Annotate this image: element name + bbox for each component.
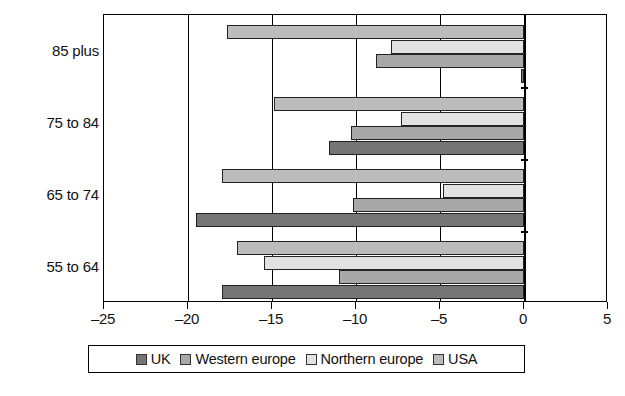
legend-item-uk: UK (136, 351, 171, 367)
group-separator-tick (521, 159, 528, 161)
bar-uk-75-to-84 (329, 141, 524, 155)
bar-usa-65-to-74 (222, 169, 524, 183)
bar-uk-55-to-64 (222, 285, 524, 299)
group-separator-tick (521, 231, 528, 233)
y-category-label-65-to-74: 65 to 74 (3, 186, 99, 203)
bar-chart-figure: 55 to 6465 to 7475 to 8485 plus –25–20–1… (0, 0, 625, 396)
bar-western-europe-85-plus (376, 54, 524, 68)
y-category-label-55-to-64: 55 to 64 (3, 258, 99, 275)
bar-usa-85-plus (227, 25, 524, 39)
bar-northern-europe-55-to-64 (264, 256, 524, 270)
legend-item-western-europe: Western europe (180, 351, 295, 367)
bar-northern-europe-75-to-84 (401, 112, 524, 126)
bar-western-europe-75-to-84 (351, 126, 524, 140)
x-tick-label: –10 (325, 310, 385, 327)
legend-swatch-icon (306, 354, 317, 365)
legend-swatch-icon (180, 354, 191, 365)
gridline-neg20 (188, 15, 189, 301)
bar-uk-85-plus (521, 69, 524, 83)
bar-northern-europe-85-plus (391, 40, 524, 54)
bar-western-europe-65-to-74 (353, 198, 524, 212)
chart-legend: UKWestern europeNorthern europeUSA (88, 345, 525, 373)
y-category-label-75-to-84: 75 to 84 (3, 114, 99, 131)
x-tick (439, 302, 440, 309)
x-tick (103, 302, 104, 309)
x-tick (523, 302, 524, 309)
gridline-0 (524, 15, 526, 301)
bar-western-europe-55-to-64 (339, 270, 524, 284)
y-category-label-85-plus: 85 plus (3, 42, 99, 59)
legend-swatch-icon (433, 354, 444, 365)
legend-swatch-icon (136, 354, 147, 365)
plot-area (103, 14, 607, 302)
legend-label: UK (151, 351, 171, 367)
legend-label: Western europe (195, 351, 295, 367)
legend-label: Northern europe (321, 351, 424, 367)
x-tick-label: –25 (73, 310, 133, 327)
legend-label: USA (448, 351, 477, 367)
x-tick-label: 0 (493, 310, 553, 327)
x-tick-label: –5 (409, 310, 469, 327)
x-tick (271, 302, 272, 309)
x-tick-label: –20 (157, 310, 217, 327)
bar-usa-55-to-64 (237, 241, 524, 255)
legend-item-usa: USA (433, 351, 477, 367)
x-tick-label: 5 (577, 310, 625, 327)
bar-uk-65-to-74 (196, 213, 524, 227)
bar-usa-75-to-84 (274, 97, 524, 111)
x-tick (187, 302, 188, 309)
bar-northern-europe-65-to-74 (443, 184, 524, 198)
group-separator-tick (521, 87, 528, 89)
y-axis-category-labels: 55 to 6465 to 7475 to 8485 plus (0, 0, 99, 396)
x-tick (355, 302, 356, 309)
x-tick-label: –15 (241, 310, 301, 327)
x-tick (607, 302, 608, 309)
legend-item-northern-europe: Northern europe (306, 351, 424, 367)
